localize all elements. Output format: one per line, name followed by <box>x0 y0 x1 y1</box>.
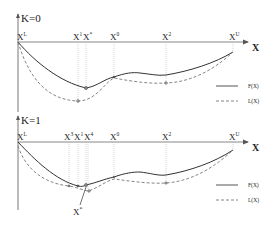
panel-title-k0: K=0 <box>21 12 41 24</box>
legend-label-f: F(X) <box>248 182 259 189</box>
legend-k0: F(X) L(X) <box>216 83 259 105</box>
x-axis-label-k0: X <box>252 42 260 53</box>
panel-title-k1: K=1 <box>21 114 41 126</box>
point-x2-l <box>165 82 168 85</box>
tick-labels-k1: XL X3 X1 X4 X0 X2 XU <box>17 131 240 142</box>
legend-label-l: L(X) <box>248 197 259 204</box>
tick-label: XU <box>229 31 240 42</box>
tick-label: X2 <box>162 131 172 142</box>
f-curve-k1 <box>18 142 233 186</box>
panel-k1: K=1 X XL X3 X1 X4 X0 X2 XU <box>17 114 260 217</box>
point-x3-l <box>68 185 71 188</box>
tick-label: X0 <box>110 131 120 142</box>
tick-label: X4 <box>84 131 94 142</box>
x-axis-label-k1: X <box>252 142 260 153</box>
point-x1-f <box>77 185 80 188</box>
point-x4-l <box>88 190 91 193</box>
legend-k1: F(X) L(X) <box>216 182 259 204</box>
tick-label: X1 <box>74 131 84 142</box>
point-x0-f <box>113 76 116 79</box>
f-curve-k0 <box>18 42 233 88</box>
tick-label: X1 <box>73 31 83 42</box>
tick-label: XL <box>17 131 28 142</box>
branch-and-bound-diagram: K=0 X XL X1 X* X0 X2 XU <box>0 0 276 231</box>
tick-label: X3 <box>64 131 74 142</box>
tick-labels-k0: XL X1 X* X0 X2 XU <box>17 31 240 42</box>
tick-label: X0 <box>110 31 120 42</box>
guide-lines-k0 <box>78 42 233 101</box>
point-x-star-f <box>84 183 87 186</box>
legend-label-l: L(X) <box>248 98 259 105</box>
legend-label-f: F(X) <box>248 83 259 90</box>
tick-label: X* <box>83 31 93 42</box>
panel-k0: K=0 X XL X1 X* X0 X2 XU <box>17 12 260 112</box>
point-x2-l <box>165 182 167 184</box>
x-star-callout-label: X* <box>73 206 83 217</box>
x-star-callout-line <box>80 187 86 205</box>
l-curve-k1 <box>18 146 233 191</box>
tick-label: XL <box>17 31 28 42</box>
tick-label: X2 <box>162 31 172 42</box>
tick-label: XU <box>229 131 240 142</box>
point-x0-f <box>113 176 115 178</box>
point-x-star-f <box>84 86 87 89</box>
point-x1-l <box>77 100 80 103</box>
